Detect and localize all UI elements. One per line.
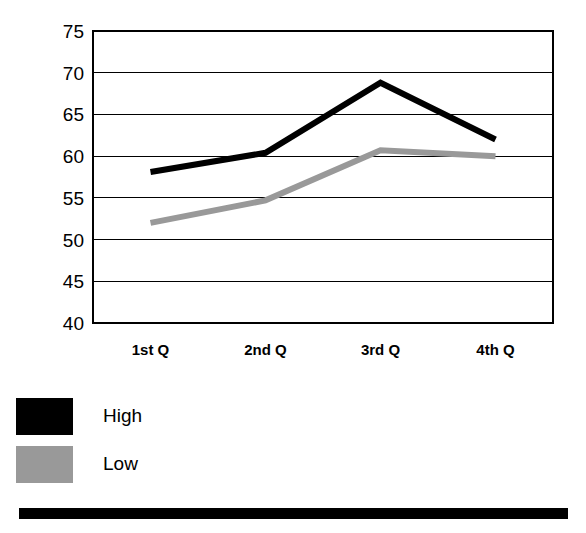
chart-figure: 4045505560657075 1st Q2nd Q3rd Q4th Q Hi… [0,0,586,533]
bottom-rule-decoration [19,508,568,519]
x-axis-tick-labels: 1st Q2nd Q3rd Q4th Q [132,341,515,358]
x-tick-label: 1st Q [132,341,170,358]
x-tick-label: 2nd Q [244,341,287,358]
x-tick-label: 4th Q [476,341,515,358]
legend-swatch-high [16,398,73,435]
x-tick-label: 3rd Q [361,341,401,358]
legend-label-low: Low [103,453,138,475]
chart-legend: High Low [16,392,336,488]
y-tick-label: 50 [63,230,84,251]
line-chart-plot: 4045505560657075 1st Q2nd Q3rd Q4th Q [0,0,586,390]
y-tick-label: 65 [63,104,84,125]
y-tick-label: 55 [63,188,84,209]
y-tick-label: 45 [63,271,84,292]
y-tick-label: 60 [63,146,84,167]
legend-label-high: High [103,405,142,427]
legend-item-high: High [16,392,336,440]
legend-swatch-low [16,446,73,483]
legend-item-low: Low [16,440,336,488]
data-series-group [151,83,496,223]
y-tick-label: 40 [63,313,84,334]
series-line-high [151,83,496,172]
y-axis-tick-labels: 4045505560657075 [63,21,84,334]
y-tick-label: 70 [63,63,84,84]
y-tick-label: 75 [63,21,84,42]
